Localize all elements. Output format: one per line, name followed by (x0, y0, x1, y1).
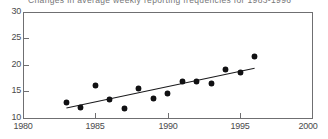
chart-figure: Changes in average weekly reporting freq… (0, 0, 328, 139)
trend-line (0, 0, 328, 139)
